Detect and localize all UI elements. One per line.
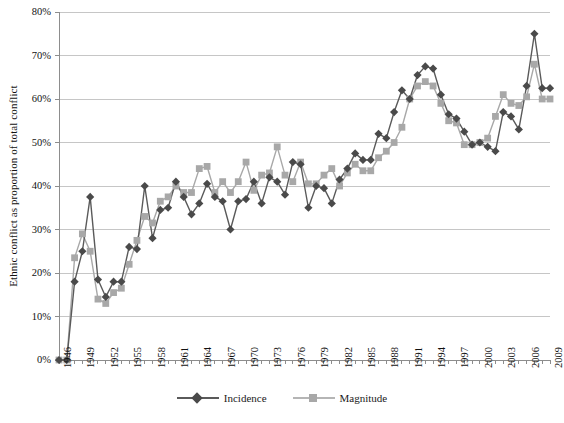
data-point-marker bbox=[484, 135, 491, 142]
data-point-marker bbox=[234, 197, 242, 205]
legend-swatch-incidence bbox=[177, 392, 219, 404]
y-axis-tick-label: 30% bbox=[17, 225, 51, 235]
data-point-marker bbox=[125, 243, 133, 251]
data-point-marker bbox=[227, 189, 234, 196]
ethnic-conflict-line-chart: Ethnic conflict as proportion of total c… bbox=[0, 0, 564, 423]
data-point-marker bbox=[258, 199, 266, 207]
data-point-marker bbox=[149, 220, 156, 227]
data-point-marker bbox=[429, 64, 437, 72]
x-axis-tick-label: 1946 bbox=[63, 347, 73, 368]
x-axis-tick-label: 1985 bbox=[367, 347, 377, 368]
data-point-marker bbox=[382, 134, 390, 142]
data-point-marker bbox=[491, 147, 499, 155]
data-point-marker bbox=[336, 183, 343, 190]
data-point-marker bbox=[282, 172, 289, 179]
y-axis-tick-label: 50% bbox=[17, 138, 51, 148]
data-point-marker bbox=[289, 178, 296, 185]
data-point-marker bbox=[460, 128, 468, 136]
x-axis-tick-label: 2000 bbox=[484, 347, 494, 368]
data-point-marker bbox=[78, 247, 86, 255]
legend-label-magnitude: Magnitude bbox=[340, 392, 388, 404]
data-point-marker bbox=[156, 206, 164, 214]
data-point-marker bbox=[87, 248, 94, 255]
data-point-marker bbox=[360, 167, 367, 174]
x-axis-tick-label: 1979 bbox=[320, 347, 330, 368]
legend-item-magnitude[interactable]: Magnitude bbox=[293, 392, 388, 404]
chart-legend: Incidence Magnitude bbox=[0, 392, 564, 404]
y-axis-tick-label: 20% bbox=[17, 268, 51, 278]
data-point-marker bbox=[383, 148, 390, 155]
x-axis-tick-label: 1973 bbox=[273, 347, 283, 368]
data-point-marker bbox=[523, 93, 530, 100]
data-point-marker bbox=[133, 245, 141, 253]
x-axis-tick-label: 1970 bbox=[250, 347, 260, 368]
x-axis-tick-label: 1994 bbox=[437, 347, 447, 368]
data-point-marker bbox=[304, 204, 312, 212]
data-point-marker bbox=[79, 230, 86, 237]
x-axis-tick-label: 1955 bbox=[133, 347, 143, 368]
x-axis-tick-label: 2006 bbox=[531, 347, 541, 368]
legend-item-incidence[interactable]: Incidence bbox=[177, 392, 267, 404]
data-point-marker bbox=[273, 178, 281, 186]
data-point-marker bbox=[515, 125, 523, 133]
x-axis-tick-label: 1997 bbox=[460, 347, 470, 368]
data-point-marker bbox=[367, 156, 375, 164]
data-point-marker bbox=[367, 167, 374, 174]
square-marker-icon bbox=[309, 394, 317, 402]
x-axis-tick-label: 1952 bbox=[110, 347, 120, 368]
x-axis-tick-label: 1976 bbox=[297, 347, 307, 368]
data-point-marker bbox=[204, 163, 211, 170]
data-point-marker bbox=[352, 161, 359, 168]
series-line-incidence bbox=[59, 34, 550, 360]
data-point-marker bbox=[164, 204, 172, 212]
data-point-marker bbox=[546, 84, 554, 92]
data-point-marker bbox=[219, 178, 226, 185]
data-point-marker bbox=[461, 141, 468, 148]
data-point-marker bbox=[328, 199, 336, 207]
x-axis-tick-label: 1982 bbox=[344, 347, 354, 368]
data-point-marker bbox=[499, 108, 507, 116]
data-point-marker bbox=[157, 198, 164, 205]
x-axis-tick-label: 1949 bbox=[86, 347, 96, 368]
data-point-marker bbox=[258, 172, 265, 179]
data-point-marker bbox=[320, 184, 328, 192]
x-axis-tick-label: 2003 bbox=[507, 347, 517, 368]
data-point-marker bbox=[430, 83, 437, 90]
data-point-marker bbox=[110, 289, 117, 296]
data-point-marker bbox=[71, 254, 78, 261]
data-point-marker bbox=[196, 165, 203, 172]
data-point-marker bbox=[531, 61, 538, 68]
x-axis-tick-label: 1991 bbox=[414, 347, 424, 368]
data-point-marker bbox=[126, 261, 133, 268]
data-point-marker bbox=[148, 234, 156, 242]
x-axis-tick-label: 1964 bbox=[203, 347, 213, 368]
data-point-marker bbox=[235, 178, 242, 185]
x-axis-tick-label: 2009 bbox=[554, 347, 564, 368]
data-point-marker bbox=[375, 154, 382, 161]
data-point-marker bbox=[445, 117, 452, 124]
data-point-marker bbox=[141, 213, 148, 220]
x-axis-tick-label: 1961 bbox=[180, 347, 190, 368]
data-point-marker bbox=[484, 143, 492, 151]
data-point-marker bbox=[102, 300, 109, 307]
y-axis-tick-label: 80% bbox=[17, 7, 51, 17]
data-point-marker bbox=[134, 237, 141, 244]
data-point-marker bbox=[86, 193, 94, 201]
y-axis-tick-label: 40% bbox=[17, 181, 51, 191]
data-point-marker bbox=[141, 182, 149, 190]
data-point-marker bbox=[530, 30, 538, 38]
x-axis-tick-label: 1988 bbox=[390, 347, 400, 368]
y-axis-tick-label: 60% bbox=[17, 94, 51, 104]
data-point-marker bbox=[321, 172, 328, 179]
legend-swatch-magnitude bbox=[293, 392, 335, 404]
data-point-marker bbox=[203, 180, 211, 188]
data-point-marker bbox=[422, 78, 429, 85]
data-point-marker bbox=[289, 158, 297, 166]
data-point-marker bbox=[445, 110, 453, 118]
data-point-marker bbox=[399, 124, 406, 131]
diamond-marker-icon bbox=[191, 392, 202, 403]
data-point-marker bbox=[226, 225, 234, 233]
series-line-magnitude bbox=[59, 64, 550, 360]
data-point-marker bbox=[70, 278, 78, 286]
data-point-marker bbox=[515, 102, 522, 109]
